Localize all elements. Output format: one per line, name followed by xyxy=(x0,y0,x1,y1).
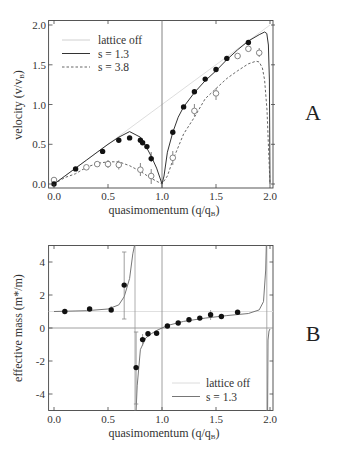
panel-b-xtick-4: 2.0 xyxy=(263,413,277,425)
panel-a-label: A xyxy=(305,100,321,125)
panel-b-xtick-1: 0.5 xyxy=(101,413,115,425)
panel-b-s13-curve-left xyxy=(54,246,135,312)
panel-b-s13-points xyxy=(62,282,240,370)
panel-b-legend-lattice-off: lattice off xyxy=(206,377,250,389)
panel-b-ylabel: effective mass (m*/m) xyxy=(11,274,25,382)
panel-a-s13-points xyxy=(51,40,251,187)
panel-b-ytick-4: -4 xyxy=(36,388,46,400)
panel-a-xtick-3: 1.5 xyxy=(209,190,223,202)
panel-b-s13-curve-tail xyxy=(268,329,270,411)
panel-a-xtick-2: 1.0 xyxy=(155,190,169,202)
panel-a-legend-s38: s = 3.8 xyxy=(98,61,129,73)
panel-a-ytick-2: 1.0 xyxy=(32,99,46,111)
panel-b-xtick-0: 0.0 xyxy=(47,413,61,425)
panel-a-legend-lattice-off: lattice off xyxy=(98,34,142,46)
panel-b-ytick-0: 4 xyxy=(40,256,46,268)
panel-a-xlabel: quasimomentum (q/qB) xyxy=(109,203,220,218)
panel-b-label: B xyxy=(306,321,321,346)
panel-a-xtick-0: 0.0 xyxy=(47,190,61,202)
figure: 0.0 0.5 1.0 1.5 2.0 0.0 0.5 1.0 1.5 2.0 … xyxy=(0,0,337,460)
panel-a-ylabel: velocity (v/vB) xyxy=(11,70,26,140)
panel-b-ytick-1: 2 xyxy=(40,289,46,301)
panel-b-xtick-2: 1.0 xyxy=(155,413,169,425)
panel-b-xtick-3: 1.5 xyxy=(209,413,223,425)
panel-b-xlabel: quasimomentum (q/qB) xyxy=(109,426,220,441)
panel-a-ytick-0: 0.0 xyxy=(32,178,46,190)
panel-a-ytick-1: 0.5 xyxy=(32,138,46,150)
panel-a-legend-s13: s = 1.3 xyxy=(98,48,129,60)
panel-b: 0.0 0.5 1.0 1.5 2.0 4 2 0 -2 -4 quasimom… xyxy=(11,246,320,442)
panel-b-legend-s13: s = 1.3 xyxy=(206,391,237,403)
panel-a-legend: lattice off s = 1.3 s = 3.8 xyxy=(62,34,142,73)
panel-a-ytick-3: 1.5 xyxy=(32,59,46,71)
panel-b-ytick-3: -2 xyxy=(36,355,45,367)
panel-b-legend: lattice off s = 1.3 xyxy=(172,377,250,403)
panel-b-ytick-2: 0 xyxy=(40,322,46,334)
panel-a: 0.0 0.5 1.0 1.5 2.0 0.0 0.5 1.0 1.5 2.0 … xyxy=(11,19,321,218)
panel-a-xtick-1: 0.5 xyxy=(101,190,115,202)
panel-a-ytick-4: 2.0 xyxy=(32,19,46,31)
panel-a-xtick-4: 2.0 xyxy=(263,190,277,202)
